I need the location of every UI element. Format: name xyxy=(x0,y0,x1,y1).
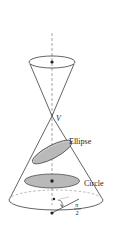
upper-center-dot xyxy=(50,60,53,63)
angle-tick xyxy=(60,197,69,199)
base-ellipse-front xyxy=(9,200,103,210)
circle-label: Circle xyxy=(84,179,104,188)
angle-label-denominator: 2 xyxy=(76,209,79,216)
lower-nappe xyxy=(9,116,103,210)
upper-left-edge xyxy=(30,64,52,116)
axis-point-dot xyxy=(53,198,55,200)
angle-arc-icon xyxy=(58,200,62,206)
angle-label-numerator: π xyxy=(75,201,79,208)
circle-center-dot xyxy=(50,179,53,182)
ellipse-label: Ellipse xyxy=(69,137,92,146)
double-cone-diagram: V Ellipse Circle π 2 xyxy=(0,0,119,240)
upper-right-edge xyxy=(52,64,74,116)
base-ellipse-back xyxy=(9,190,103,200)
vertex-label: V xyxy=(56,114,62,123)
circle-section xyxy=(25,174,80,188)
